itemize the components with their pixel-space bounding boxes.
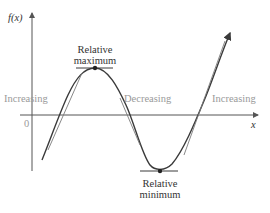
- tangent-increasing-left: [48, 73, 82, 150]
- x-axis-label: x: [251, 119, 256, 130]
- relative-maximum-label: Relative maximum: [70, 44, 120, 66]
- function-extrema-diagram: f(x) x 0 Increasing Decreasing Increasin…: [0, 0, 270, 213]
- region-increasing-right: Increasing: [212, 93, 256, 104]
- maximum-point: [93, 66, 97, 70]
- relative-minimum-label: Relative minimum: [135, 178, 185, 200]
- region-increasing-left: Increasing: [4, 93, 48, 104]
- region-decreasing: Decreasing: [124, 93, 171, 104]
- tangent-decreasing: [120, 98, 140, 145]
- minimum-point: [158, 169, 162, 173]
- origin-label: 0: [24, 118, 29, 129]
- y-axis-label: f(x): [8, 12, 23, 23]
